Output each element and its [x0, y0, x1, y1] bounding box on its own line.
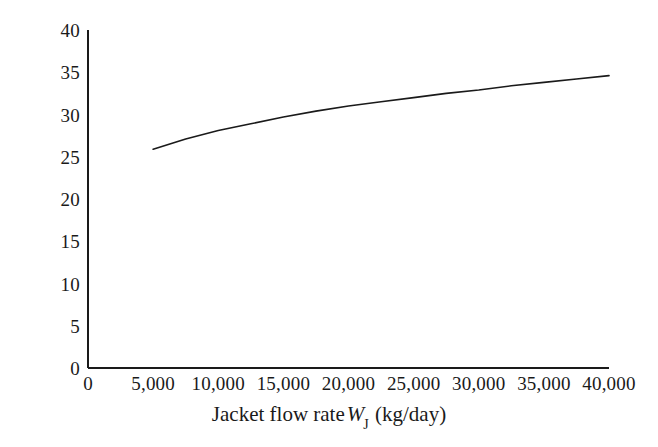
chart-figure: 0510152025303540 05,00010,00015,00020,00…	[0, 0, 658, 447]
x-axis-tick-labels: 05,00010,00015,00020,00025,00030,00035,0…	[0, 374, 658, 404]
x-tick-label: 30,000	[452, 374, 505, 393]
y-tick-label: 40	[44, 21, 80, 40]
x-tick-label: 25,000	[387, 374, 440, 393]
y-tick-label: 25	[44, 148, 80, 167]
x-axis-title-units: (kg/day)	[375, 402, 446, 426]
x-tick-label: 0	[83, 374, 93, 393]
y-tick-label: 5	[44, 317, 80, 336]
x-axis-title-subscript: J	[363, 417, 368, 432]
y-tick-label: 35	[44, 63, 80, 82]
x-tick-label: 40,000	[582, 374, 635, 393]
x-tick-label: 10,000	[192, 374, 245, 393]
y-tick-label: 30	[44, 106, 80, 125]
x-axis-title-symbol: W	[345, 402, 365, 426]
x-axis-title-prefix: Jacket flow rate	[212, 402, 345, 426]
x-tick-label: 5,000	[131, 374, 175, 393]
data-series-line	[153, 76, 609, 150]
y-tick-label: 20	[44, 190, 80, 209]
x-tick-label: 20,000	[322, 374, 375, 393]
y-tick-label: 10	[44, 275, 80, 294]
x-axis-title: Jacket flow rateWJ (kg/day)	[0, 404, 658, 429]
x-tick-label: 35,000	[517, 374, 570, 393]
y-tick-label: 15	[44, 232, 80, 251]
x-tick-label: 15,000	[257, 374, 310, 393]
